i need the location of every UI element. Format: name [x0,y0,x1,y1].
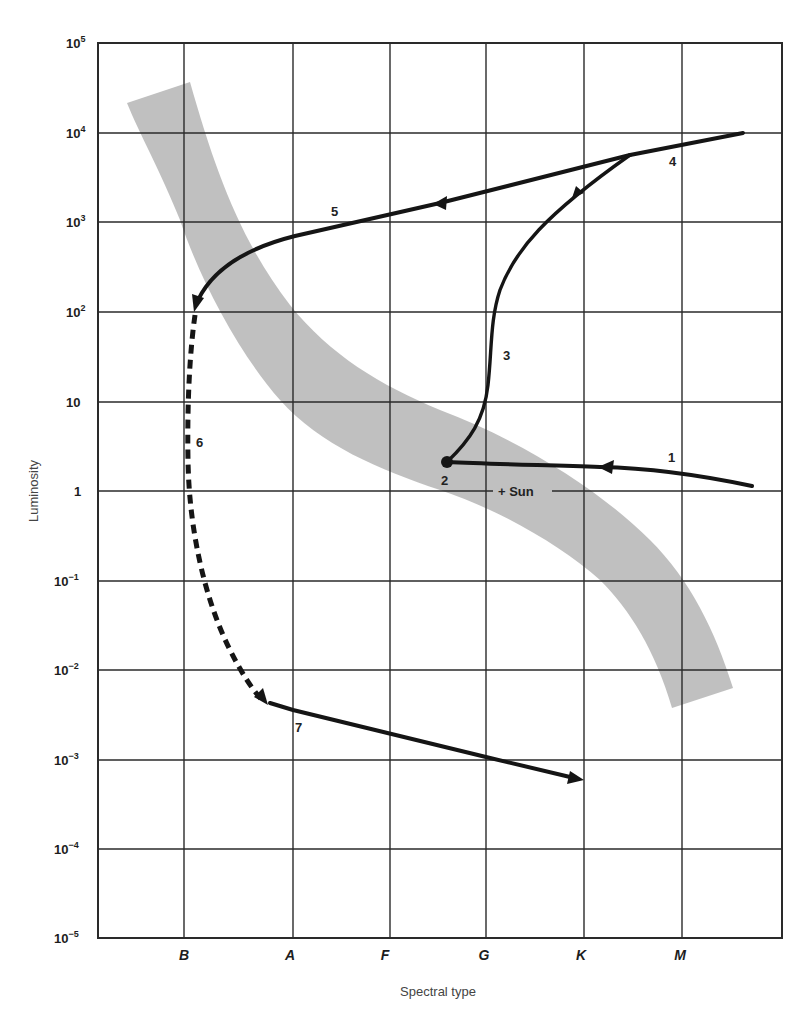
track-label-3: 3 [503,348,510,363]
svg-text:A: A [284,947,295,963]
svg-text:104: 104 [66,124,85,141]
svg-text:10−1: 10−1 [54,572,79,589]
track-label-4: 4 [669,154,677,169]
track-label-7: 7 [295,720,302,735]
svg-text:10−2: 10−2 [54,661,79,678]
track-5-arrow-icon [433,196,447,210]
svg-text:10−5: 10−5 [54,929,79,946]
svg-text:10: 10 [66,395,80,410]
track-7 [270,703,570,777]
svg-text:105: 105 [66,34,85,51]
track-7-arrow-icon [567,771,584,784]
track-label-2: 2 [441,473,448,488]
x-axis-label: Spectral type [400,984,476,999]
svg-text:103: 103 [66,213,85,230]
svg-text:F: F [381,947,390,963]
x-axis-ticks: B A F G K M [179,947,686,963]
svg-text:1: 1 [74,484,81,499]
y-axis-label: Luminosity [26,459,41,522]
hr-diagram: + Sun 1 2 3 4 5 6 7 105 104 103 102 10 1… [0,0,808,1023]
svg-text:M: M [674,947,686,963]
sun-label: + Sun [498,484,534,499]
svg-text:G: G [479,947,490,963]
track-4 [630,133,743,155]
track-1-arrow-icon [598,460,614,474]
svg-text:10−4: 10−4 [54,840,79,857]
track-label-1: 1 [668,450,675,465]
track-label-5: 5 [331,204,338,219]
track-5-end-arrow-icon [192,294,204,312]
track-6 [188,315,262,700]
y-axis-ticks: 105 104 103 102 10 1 10−1 10−2 10−3 10−4… [54,34,85,946]
track-3 [447,155,630,462]
track-6-arrow-icon [254,688,268,705]
svg-text:K: K [576,947,587,963]
main-sequence-band [127,82,733,708]
svg-text:B: B [179,947,189,963]
svg-text:102: 102 [66,303,85,320]
svg-text:10−3: 10−3 [54,751,79,768]
track-label-6: 6 [196,435,203,450]
